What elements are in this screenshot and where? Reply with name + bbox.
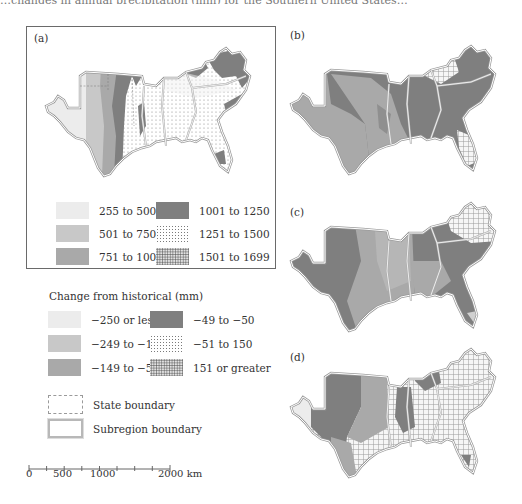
change-legend-item-3: −149 to −50 (48, 359, 159, 376)
scale-label-2000: 2000 km (158, 468, 202, 479)
scale-label-500: 500 (53, 468, 72, 479)
swatch-1251-1500 (156, 225, 189, 242)
subregion-boundary-swatch (48, 419, 83, 438)
map-a-historical (46, 46, 252, 176)
panel-a-label: (a) (34, 32, 48, 44)
swatch-minus250 (48, 311, 81, 328)
swatch-255-500 (56, 202, 89, 219)
swatch-1501-1699 (156, 248, 189, 265)
change-legend-item-5: −51 to 150 (150, 335, 252, 352)
swatch-minus51-150 (150, 335, 183, 352)
state-boundary-legend: State boundary (48, 395, 175, 414)
legend-historical-item-5: 1251 to 1500 (156, 225, 270, 242)
map-c-change (291, 201, 497, 331)
panel-b-label: (b) (290, 29, 305, 41)
subregion-boundary-legend: Subregion boundary (48, 419, 202, 438)
legend-historical-item-6: 1501 to 1699 (156, 248, 270, 265)
map-b-change (291, 44, 497, 174)
map-d-change (291, 347, 497, 477)
change-legend-item-2: −249 to −150 (48, 335, 166, 352)
legend-historical-item-2: 501 to 750 (56, 225, 156, 242)
swatch-501-750 (56, 225, 89, 242)
legend-historical-item-1: 255 to 500 (56, 202, 156, 219)
swatch-1001-1250 (156, 202, 189, 219)
swatch-minus149-50 (48, 359, 81, 376)
scale-label-0: 0 (26, 468, 32, 479)
change-legend-item-6: 151 or greater (150, 359, 271, 376)
swatch-151-greater (150, 359, 183, 376)
legend-historical-item-3: 751 to 1000 (56, 248, 163, 265)
change-legend-title: Change from historical (mm) (49, 290, 203, 302)
swatch-minus49-50 (150, 311, 183, 328)
legend-historical-item-4: 1001 to 1250 (156, 202, 270, 219)
state-boundary-swatch (48, 395, 83, 414)
scale-label-1000: 1000 (90, 468, 115, 479)
swatch-751-1000 (56, 248, 89, 265)
change-legend-item-4: −49 to −50 (150, 311, 255, 328)
swatch-minus249-150 (48, 335, 81, 352)
cropped-caption-line: …changes in annual precipitation (mm) fo… (0, 0, 522, 4)
change-legend-item-1: −250 or less (48, 311, 158, 328)
